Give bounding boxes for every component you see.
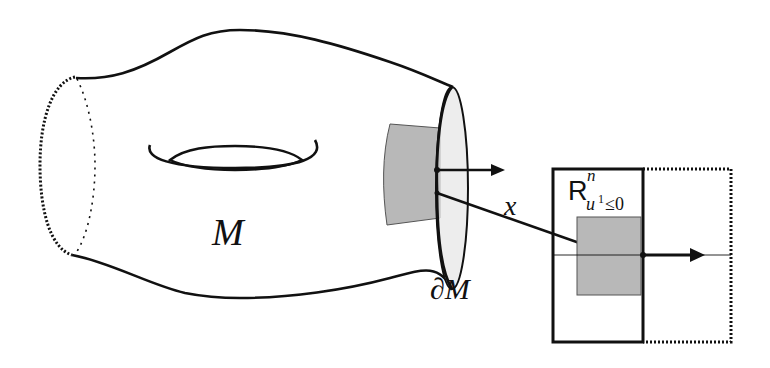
halfspace-label-subscript-sup: 1 xyxy=(598,192,604,206)
halfspace-label-superscript: n xyxy=(587,166,596,185)
chart-source-dot xyxy=(435,191,440,196)
halfspace-label-base: R xyxy=(568,176,588,206)
chart-map-label: x xyxy=(503,190,517,221)
manifold-top-edge xyxy=(76,30,453,87)
boundary-label: ∂M xyxy=(430,272,472,305)
manifold-bottom-edge xyxy=(72,255,452,298)
manifold-label: M xyxy=(211,211,246,253)
boundary-point-dot xyxy=(434,167,440,173)
boundary-normal-arrowhead-icon xyxy=(491,164,505,176)
halfspace-boundary-dot xyxy=(640,252,646,258)
halfspace-label-subscript-rel: ≤0 xyxy=(605,194,624,214)
manifold-chart-diagram: M ∂M x R n u 1 ≤0 xyxy=(0,0,770,368)
left-boundary-inner-dotted xyxy=(76,79,95,253)
left-boundary-outer-dotted xyxy=(40,77,75,255)
chart-image-patch xyxy=(577,217,641,295)
handle-inner-ellipse xyxy=(170,146,302,170)
chart-domain-patch xyxy=(384,124,440,225)
halfspace-label-subscript-var: u xyxy=(586,194,595,214)
halfspace-normal-arrowhead-icon xyxy=(690,248,705,262)
